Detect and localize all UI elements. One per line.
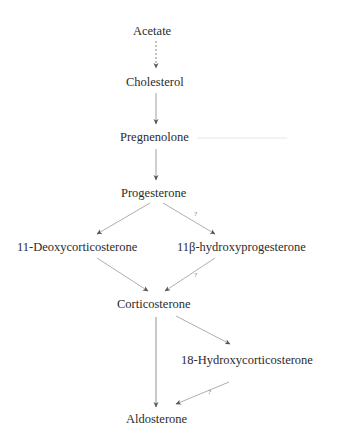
uncertain-mark: ?	[194, 210, 197, 218]
node-acetate: Acetate	[133, 24, 171, 39]
uncertain-mark: ?	[194, 271, 197, 279]
arrow-hydroxycorticosterone-aldosterone	[176, 382, 229, 404]
arrow-progesterone-deoxycorticosterone	[97, 203, 150, 234]
arrow-deoxycorticosterone-corticosterone	[97, 258, 148, 291]
node-11b-hydroxyprogesterone: 11β-hydroxyprogesterone	[177, 240, 306, 255]
node-pregnenolone: Pregnenolone	[120, 130, 189, 145]
node-corticosterone: Corticosterone	[117, 297, 191, 312]
node-progesterone: Progesterone	[121, 186, 186, 201]
node-18-hydroxycorticosterone: 18-Hydroxycorticosterone	[181, 353, 313, 368]
arrow-corticosterone-hydroxycorticosterone	[176, 316, 230, 344]
pathway-arrows	[0, 0, 338, 442]
node-cholesterol: Cholesterol	[126, 75, 184, 90]
arrow-progesterone-hydroxyprogesterone	[163, 203, 215, 234]
node-11-deoxycorticosterone: 11-Deoxycorticosterone	[17, 240, 137, 255]
uncertain-mark: ?	[208, 388, 211, 396]
arrow-hydroxyprogesterone-corticosterone	[165, 258, 215, 291]
node-aldosterone: Aldosterone	[126, 412, 187, 427]
